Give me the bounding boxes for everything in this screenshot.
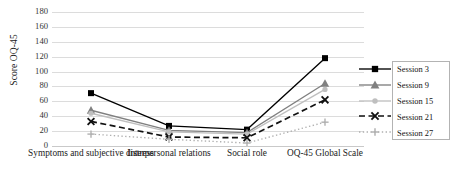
legend-swatch-2 [358, 77, 394, 93]
legend-swatch-4 [358, 108, 394, 124]
legend: Session 3Session 9Session 15Session 21Se… [392, 61, 450, 140]
data-point-triangle [321, 79, 329, 87]
data-point-circle [166, 129, 171, 134]
legend-item-4[interactable]: Session 21 [393, 109, 449, 125]
data-point-circle [88, 111, 93, 116]
data-point-square [322, 55, 328, 61]
y-axis-tick-labels: 020406080100120140160180 [20, 0, 48, 194]
x-tick-label: Interpersonal relations [123, 148, 215, 160]
legend-item-5[interactable]: Session 27 [393, 125, 449, 141]
data-point-x [322, 96, 329, 103]
data-point-square [372, 66, 378, 72]
data-point-circle [322, 87, 327, 92]
legend-swatch-5 [358, 124, 394, 140]
y-tick-label: 140 [20, 37, 48, 46]
y-tick-label: 80 [20, 81, 48, 90]
legend-swatch-3 [358, 93, 394, 109]
x-tick-label: OQ-45 Global Scale [269, 148, 381, 160]
data-point-square [88, 90, 94, 96]
gridline [52, 146, 364, 147]
oq45-line-chart: Score OQ-45 020406080100120140160180 Sym… [0, 0, 454, 194]
legend-item-2[interactable]: Session 9 [393, 78, 449, 94]
legend-item-label: Session 9 [397, 81, 429, 90]
legend-item-3[interactable]: Session 15 [393, 94, 449, 110]
y-tick-label: 100 [20, 67, 48, 76]
data-point-circle [372, 98, 377, 103]
data-point-plus [87, 130, 94, 137]
data-point-plus [321, 119, 328, 126]
legend-item-label: Session 3 [397, 65, 429, 74]
legend-item-label: Session 27 [397, 129, 433, 138]
legend-item-label: Session 15 [397, 97, 433, 106]
y-tick-label: 40 [20, 111, 48, 120]
legend-markers [358, 61, 394, 140]
x-axis-tick-labels: Symptoms and subjective distressInterper… [52, 148, 364, 182]
data-point-plus [371, 128, 379, 136]
series-layer [52, 12, 364, 146]
legend-item-label: Session 21 [397, 113, 433, 122]
plot-area [52, 12, 364, 146]
y-tick-label: 120 [20, 52, 48, 61]
legend-swatch-1 [358, 61, 394, 77]
y-tick-label: 20 [20, 126, 48, 135]
legend-item-1[interactable]: Session 3 [393, 62, 449, 78]
y-tick-label: 60 [20, 96, 48, 105]
y-tick-label: 180 [20, 7, 48, 16]
y-tick-label: 160 [20, 22, 48, 31]
